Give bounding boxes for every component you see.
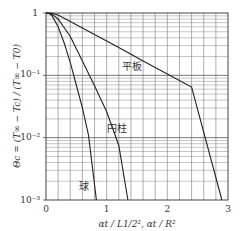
x-tick-labels: 0 1 2 3	[43, 204, 231, 214]
y-axis-title: Θc = (T∞ − Tc) / (T∞ − T0)	[12, 43, 22, 168]
x-tick-1: 1	[104, 204, 110, 214]
curves	[46, 13, 222, 200]
y-tick-labels: 1 10⁻¹ 10⁻² 10⁻³	[20, 8, 40, 205]
x-tick-2: 2	[164, 204, 170, 214]
y-tick-1e-2: 10⁻²	[20, 132, 40, 142]
curve-球	[46, 13, 96, 200]
grid-lines	[43, 13, 228, 200]
x-tick-0: 0	[43, 204, 49, 214]
label-plate: 平板	[122, 60, 142, 72]
y-tick-1e-3: 10⁻³	[20, 195, 40, 205]
plot-frame	[46, 13, 228, 200]
y-tick-1: 1	[32, 8, 38, 18]
y-tick-1e-1: 10⁻¹	[20, 69, 40, 79]
label-cylinder: 円柱	[107, 122, 127, 134]
center-temperature-chart: 1 10⁻¹ 10⁻² 10⁻³ 0 1 2 3 αt / L1/2², αt …	[0, 0, 248, 231]
label-sphere: 球	[79, 180, 89, 192]
x-axis-title: αt / L1/2², αt / R²	[98, 219, 175, 229]
x-tick-3: 3	[225, 204, 231, 214]
